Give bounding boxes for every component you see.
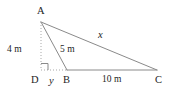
measure-label-AD: 4 m — [7, 44, 22, 55]
measure-label-DB: y — [49, 75, 54, 86]
right-angle-marker-at-D — [41, 64, 48, 71]
measure-label-BC: 10 m — [102, 74, 121, 85]
vertex-label-D: D — [31, 74, 39, 85]
measure-label-AC: x — [98, 29, 103, 40]
diagram-canvas — [0, 0, 179, 98]
vertex-label-A: A — [37, 5, 45, 16]
vertex-label-B: B — [63, 74, 70, 85]
vertex-label-C: C — [155, 74, 162, 85]
geometry-diagram: A D B C 4 m 5 m x y 10 m — [0, 0, 179, 98]
measure-label-AB: 5 m — [60, 44, 75, 55]
